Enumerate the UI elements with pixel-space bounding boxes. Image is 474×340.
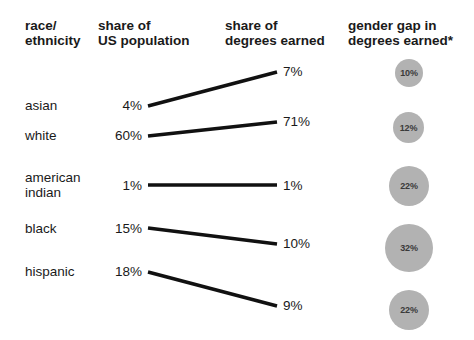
gap-bubble-asian: 10% bbox=[395, 59, 423, 87]
gap-bubble-label-american-indian: 22% bbox=[400, 181, 417, 191]
gap-bubble-label-hispanic: 22% bbox=[400, 305, 417, 315]
row-right-value-hispanic: 9% bbox=[283, 298, 303, 313]
row-left-value-american-indian: 1% bbox=[76, 178, 142, 193]
row-label-white: white bbox=[25, 128, 57, 143]
row-right-value-asian: 7% bbox=[283, 64, 303, 79]
row-left-value-hispanic: 18% bbox=[76, 264, 142, 279]
slope-line-asian bbox=[148, 72, 277, 106]
row-right-value-white: 71% bbox=[283, 114, 310, 129]
gap-bubble-label-white: 12% bbox=[400, 123, 417, 133]
slopegraph-chart: race/ ethnicity share of US population s… bbox=[0, 0, 474, 340]
slope-line-black bbox=[148, 228, 277, 244]
slope-line-white bbox=[148, 122, 277, 136]
gap-bubble-label-asian: 10% bbox=[400, 68, 417, 78]
row-left-value-black: 15% bbox=[76, 221, 142, 236]
row-label-asian: asian bbox=[25, 98, 57, 113]
row-label-black: black bbox=[25, 221, 57, 236]
row-label-hispanic: hispanic bbox=[25, 264, 75, 279]
gap-bubble-label-black: 32% bbox=[400, 243, 417, 253]
column-header-race-ethnicity: race/ ethnicity bbox=[25, 18, 81, 48]
gap-bubble-hispanic: 22% bbox=[389, 290, 429, 330]
row-right-value-black: 10% bbox=[283, 236, 310, 251]
row-label-american-indian: american indian bbox=[25, 170, 81, 200]
column-header-gender-gap: gender gap in degrees earned* bbox=[348, 18, 453, 48]
gap-bubble-white: 12% bbox=[393, 112, 424, 143]
row-left-value-asian: 4% bbox=[76, 98, 142, 113]
row-left-value-white: 60% bbox=[76, 128, 142, 143]
slope-line-hispanic bbox=[148, 272, 277, 306]
gap-bubble-black: 32% bbox=[385, 224, 433, 272]
gap-bubble-american-indian: 22% bbox=[389, 166, 429, 206]
column-header-us-population: share of US population bbox=[98, 18, 190, 48]
row-right-value-american-indian: 1% bbox=[283, 178, 303, 193]
column-header-degrees-earned: share of degrees earned bbox=[225, 18, 325, 48]
